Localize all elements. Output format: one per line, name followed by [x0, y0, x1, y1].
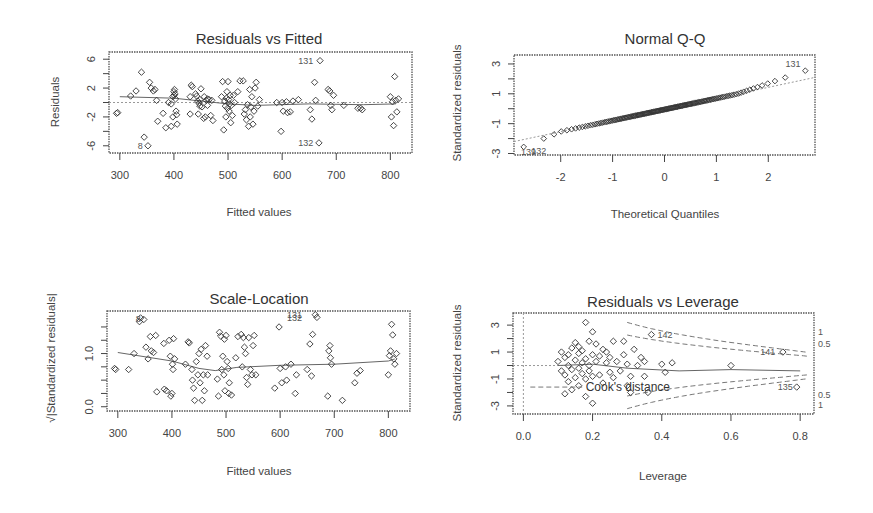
- data-point: [307, 107, 313, 113]
- data-point: [582, 393, 588, 399]
- data-point: [589, 373, 595, 379]
- data-point: [163, 125, 169, 131]
- data-point: [233, 355, 239, 361]
- data-point: [579, 370, 585, 376]
- y-axis-label: Residuals: [49, 77, 61, 128]
- data-point: [389, 332, 395, 338]
- data-point: [341, 102, 347, 108]
- point-annotation: 0.5: [818, 339, 831, 349]
- x-axis-label: Theoretical Quantiles: [611, 208, 720, 220]
- data-point: [607, 354, 613, 360]
- y-tick-label: 3: [489, 322, 501, 328]
- data-point: [214, 376, 220, 382]
- data-point: [802, 68, 808, 74]
- point-annotation: 132: [298, 138, 313, 148]
- data-point: [388, 114, 394, 120]
- data-point: [317, 57, 323, 63]
- data-point: [352, 380, 358, 386]
- axes: -2-1012-3-113: [490, 61, 772, 183]
- plot-area: 131139132: [514, 59, 815, 157]
- data-point: [193, 358, 199, 364]
- y-tick-label: 0.0: [83, 399, 95, 414]
- y-axis-label: √|Standardized residuals|: [45, 293, 57, 422]
- data-point: [572, 357, 578, 363]
- data-point: [325, 393, 331, 399]
- data-point: [593, 341, 599, 347]
- data-point: [659, 361, 665, 367]
- x-tick-label: 0.4: [654, 430, 669, 442]
- y-tick-label: 2: [85, 85, 97, 91]
- data-point: [161, 340, 167, 346]
- data-point: [256, 96, 262, 102]
- data-point: [190, 385, 196, 391]
- data-point: [572, 374, 578, 380]
- data-point: [308, 373, 314, 379]
- data-point: [562, 354, 568, 360]
- data-point: [125, 366, 131, 372]
- x-tick-label: 2: [765, 171, 771, 183]
- data-point: [610, 338, 616, 344]
- data-point: [278, 128, 284, 134]
- data-point: [391, 73, 397, 79]
- data-point: [143, 344, 149, 350]
- y-tick-label: -3: [489, 401, 501, 411]
- data-point: [189, 377, 195, 383]
- data-point: [197, 380, 203, 386]
- plot-frame: [513, 313, 814, 414]
- data-point: [141, 134, 147, 140]
- data-point: [589, 352, 595, 358]
- x-tick-label: 500: [217, 427, 235, 439]
- data-point: [241, 344, 247, 350]
- plot-frame: [107, 311, 410, 411]
- panel-title: Normal Q-Q: [625, 30, 706, 47]
- data-point: [576, 350, 582, 356]
- data-point: [596, 353, 602, 359]
- data-point: [204, 372, 210, 378]
- data-point: [621, 352, 627, 358]
- data-point: [246, 86, 252, 92]
- data-point: [221, 127, 227, 133]
- x-tick-label: 1: [713, 171, 719, 183]
- y-tick-label: -3: [490, 149, 502, 159]
- data-point: [569, 345, 575, 351]
- data-point: [187, 111, 193, 117]
- point-annotation: 1: [818, 327, 823, 337]
- data-point: [272, 385, 278, 391]
- y-axis-label: Standardized residuals: [451, 304, 463, 421]
- data-point: [641, 373, 647, 379]
- data-point: [565, 352, 571, 358]
- point-annotation: 132: [531, 146, 546, 156]
- data-point: [244, 381, 250, 387]
- point-annotation: 8: [138, 141, 143, 151]
- data-point: [648, 331, 654, 337]
- data-point: [255, 103, 261, 109]
- data-point: [339, 397, 345, 403]
- x-tick-label: 0.8: [793, 430, 808, 442]
- panel-residuals-vs-fitted: Residuals vs Fitted 1311328 300400500600…: [49, 30, 412, 218]
- data-point: [794, 384, 800, 390]
- data-point: [247, 114, 253, 120]
- point-annotation: 141: [760, 347, 775, 357]
- data-point: [204, 102, 210, 108]
- data-point: [589, 329, 595, 335]
- data-point: [152, 332, 158, 338]
- data-point: [249, 94, 255, 100]
- panel-residuals-vs-leverage: Residuals vs Leverage Cook's distance142…: [451, 293, 831, 482]
- data-point: [326, 348, 332, 354]
- data-point: [634, 362, 640, 368]
- data-point: [593, 358, 599, 364]
- data-point: [167, 353, 173, 359]
- data-point: [669, 360, 675, 366]
- data-point: [576, 383, 582, 389]
- point-annotation: 8: [136, 314, 141, 324]
- data-point: [253, 79, 259, 85]
- x-tick-label: 400: [163, 427, 181, 439]
- data-point: [316, 140, 322, 146]
- x-tick-label: 0.2: [585, 430, 600, 442]
- data-point: [154, 389, 160, 395]
- data-point: [224, 358, 230, 364]
- data-point: [617, 368, 623, 374]
- y-tick-label: 3: [490, 61, 502, 67]
- data-point: [311, 79, 317, 85]
- y-tick-label: 1.0: [83, 346, 95, 361]
